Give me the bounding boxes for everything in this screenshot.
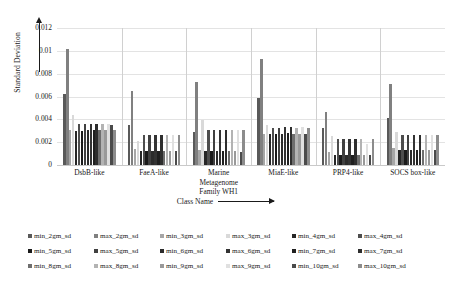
legend-label: min_7gm_sd	[298, 247, 335, 255]
bar-group	[316, 28, 381, 165]
category-separator	[122, 28, 123, 165]
legend-swatch-icon	[226, 249, 230, 253]
x-tick-label-line: DsbB-like	[57, 168, 122, 178]
legend-item[interactable]: min_8gm_sd	[28, 262, 94, 270]
legend-swatch-icon	[292, 264, 296, 268]
legend-row: min_8gm_sdmax_8gm_sdmin_9gm_sdmax_9gm_sd…	[0, 258, 451, 273]
legend-item[interactable]: min_6gm_sd	[160, 247, 226, 255]
legend-item[interactable]: max_2gm_sd	[94, 232, 160, 240]
legend-label: max_5gm_sd	[100, 247, 138, 255]
bar	[178, 135, 180, 165]
legend-swatch-icon	[28, 234, 32, 238]
x-tick-label-line: Marine	[186, 168, 251, 178]
y-tick-label: 0	[48, 161, 52, 169]
legend-swatch-icon	[358, 264, 362, 268]
legend-item[interactable]: max_3gm_sd	[226, 232, 292, 240]
legend-label: min_6gm_sd	[166, 247, 203, 255]
y-tick-label: 0.012	[35, 24, 52, 32]
legend-label: min_9gm_sd	[166, 262, 203, 270]
legend-swatch-icon	[160, 264, 164, 268]
category-separator	[251, 28, 252, 165]
legend-item[interactable]: min_4gm_sd	[292, 232, 358, 240]
legend-label: max_4gm_sd	[364, 232, 402, 240]
legend-label: min_3gm_sd	[166, 232, 203, 240]
y-tick-label: 0.002	[35, 138, 52, 146]
legend-item[interactable]: max_6gm_sd	[226, 247, 292, 255]
gridline	[57, 165, 445, 166]
bar	[307, 128, 309, 165]
category-separator	[380, 28, 381, 165]
legend-label: max_9gm_sd	[232, 262, 270, 270]
legend-label: min_8gm_sd	[34, 262, 71, 270]
legend-item[interactable]: min_10gm_sd	[292, 262, 358, 270]
bar-group	[57, 28, 122, 165]
x-axis-title: Class Name	[0, 197, 451, 206]
category-separator	[316, 28, 317, 165]
legend-swatch-icon	[292, 249, 296, 253]
legend-swatch-icon	[94, 264, 98, 268]
standard-deviation-bar-chart: Standard Deviation 00.0020.0040.0060.008…	[0, 0, 451, 292]
legend-swatch-icon	[94, 249, 98, 253]
legend-row: min_5gm_sdmax_5gm_sdmin_6gm_sdmax_6gm_sd…	[0, 243, 451, 258]
y-axis-tick-labels: 00.0020.0040.0060.0080.010.012	[0, 0, 56, 170]
y-tick-label: 0.004	[35, 115, 52, 123]
category-separator	[186, 28, 187, 165]
legend-item[interactable]: min_2gm_sd	[28, 232, 94, 240]
legend-swatch-icon	[226, 234, 230, 238]
bar-groups	[57, 28, 445, 165]
x-axis-arrow-icon	[218, 201, 274, 202]
y-tick-label: 0.008	[35, 70, 52, 78]
x-tick-label-line: MiaE-like	[251, 168, 316, 178]
legend-swatch-icon	[160, 234, 164, 238]
bar-group	[380, 28, 445, 165]
legend-label: min_4gm_sd	[298, 232, 335, 240]
legend-item[interactable]: max_4gm_sd	[358, 232, 424, 240]
legend-label: max_10gm_sd	[364, 262, 406, 270]
legend-label: min_5gm_sd	[34, 247, 71, 255]
legend-swatch-icon	[160, 249, 164, 253]
bar	[372, 139, 374, 165]
legend-item[interactable]: min_5gm_sd	[28, 247, 94, 255]
legend-label: min_10gm_sd	[298, 262, 339, 270]
legend-item[interactable]: max_7gm_sd	[358, 247, 424, 255]
x-tick-label-line: Metagenome	[186, 178, 251, 188]
legend-label: max_2gm_sd	[100, 232, 138, 240]
legend-swatch-icon	[94, 234, 98, 238]
bar-group	[186, 28, 251, 165]
legend-swatch-icon	[292, 234, 296, 238]
bar	[436, 135, 438, 165]
plot-area: Standard Deviation 00.0020.0040.0060.008…	[0, 0, 451, 215]
legend-label: max_6gm_sd	[232, 247, 270, 255]
bar-group	[251, 28, 316, 165]
y-tick-label: 0.01	[39, 47, 52, 55]
legend-swatch-icon	[358, 249, 362, 253]
bar-group	[122, 28, 187, 165]
legend-item[interactable]: min_3gm_sd	[160, 232, 226, 240]
y-tick-label: 0.006	[35, 93, 52, 101]
legend-item[interactable]: max_8gm_sd	[94, 262, 160, 270]
legend-label: max_8gm_sd	[100, 262, 138, 270]
x-tick-label-line: FaeA-like	[122, 168, 187, 178]
chart-legend: min_2gm_sdmax_2gm_sdmin_3gm_sdmax_3gm_sd…	[0, 228, 451, 273]
legend-item[interactable]: max_10gm_sd	[358, 262, 424, 270]
legend-item[interactable]: min_9gm_sd	[160, 262, 226, 270]
legend-label: max_7gm_sd	[364, 247, 402, 255]
legend-swatch-icon	[28, 264, 32, 268]
bar	[242, 130, 244, 165]
x-tick-label-line: Family WH1	[186, 187, 251, 197]
bar	[113, 130, 115, 165]
legend-swatch-icon	[358, 234, 362, 238]
x-tick-label-line: PRP4-like	[316, 168, 381, 178]
legend-swatch-icon	[28, 249, 32, 253]
legend-label: min_2gm_sd	[34, 232, 71, 240]
legend-item[interactable]: max_9gm_sd	[226, 262, 292, 270]
x-tick-label-line: SOCS box-like	[380, 168, 445, 178]
legend-label: max_3gm_sd	[232, 232, 270, 240]
legend-row: min_2gm_sdmax_2gm_sdmin_3gm_sdmax_3gm_sd…	[0, 228, 451, 243]
legend-item[interactable]: min_7gm_sd	[292, 247, 358, 255]
legend-swatch-icon	[226, 264, 230, 268]
x-axis-title-label: Class Name	[177, 197, 214, 206]
legend-item[interactable]: max_5gm_sd	[94, 247, 160, 255]
